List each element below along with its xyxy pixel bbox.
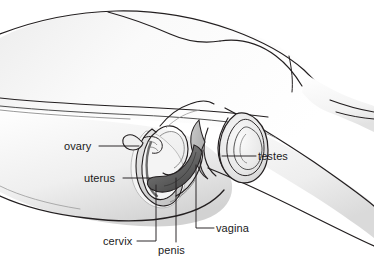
label-testes: testes <box>258 150 288 162</box>
anatomy-illustration <box>0 0 374 259</box>
label-penis: penis <box>158 244 185 256</box>
label-cervix: cervix <box>103 235 132 247</box>
label-uterus: uterus <box>84 172 115 184</box>
label-vagina: vagina <box>216 222 249 234</box>
label-ovary: ovary <box>64 140 91 152</box>
anatomy-figure: ovary uterus testes cervix penis vagina <box>0 0 374 259</box>
